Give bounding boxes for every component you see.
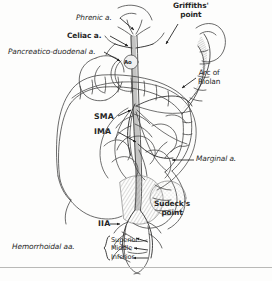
leader-arc-of-riolan	[182, 78, 196, 88]
label-arc-of-riolan: Arc of Riolan	[198, 69, 220, 86]
label-griffiths-point: Griffiths' point	[173, 2, 209, 19]
label-sudecks-point: Sudeck's point	[154, 200, 190, 217]
upper-abdomen-outline	[118, 5, 152, 20]
ascending-colon	[57, 92, 72, 200]
label-iia: IIA	[98, 220, 110, 228]
footer-divider	[0, 267, 272, 268]
label-pancreatico-duodenal-artery: Pancreatico-duodenal a.	[8, 48, 95, 57]
leader-celiac	[110, 36, 128, 46]
transverse-colon	[70, 75, 188, 114]
label-marginal-artery: Marginal a.	[196, 155, 236, 164]
anatomical-figure: Phrenic a. Celiac a. Pancreatico-duodena…	[0, 0, 272, 281]
label-celiac-artery: Celiac a.	[67, 32, 101, 41]
label-phrenic-artery: Phrenic a.	[76, 14, 112, 23]
inferior-mesenteric-artery	[138, 142, 180, 176]
pelvic-outline	[65, 200, 122, 224]
leader-lines	[104, 18, 196, 258]
label-hemorrhoidal-branches: Superior Middle Inferior	[111, 236, 138, 261]
label-aorta: Ao	[124, 58, 132, 67]
label-ima: IMA	[94, 128, 111, 137]
hemorrhoidal-brace	[104, 236, 110, 260]
phrenic-arteries	[118, 20, 150, 36]
label-hemorrhoidal-arteries: Hemorrhoidal aa.	[12, 243, 75, 252]
leader-pancreatico-duodenal	[104, 52, 120, 61]
leader-griffiths	[166, 24, 178, 44]
illustration-linework	[57, 5, 226, 274]
label-sma: SMA	[94, 113, 114, 122]
